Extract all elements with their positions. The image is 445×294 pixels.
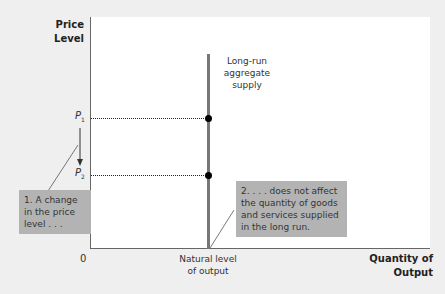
lras-label-line3: supply [218, 79, 276, 91]
annotation-arrows [0, 0, 445, 294]
annotation-box-2: 2. . . . does not affect the quantity of… [236, 181, 347, 237]
note2-line3: and services supplied [241, 209, 342, 221]
note2-line4: in the long run. [241, 221, 342, 233]
note1-line3: level . . . [24, 218, 86, 230]
lras-label: Long-run aggregate supply [218, 55, 276, 91]
point-p2 [205, 172, 212, 179]
point-p1 [205, 115, 212, 122]
annotation-box-1: 1. A change in the price level . . . [19, 190, 91, 234]
lras-curve [207, 54, 210, 249]
natural-level-line1: Natural level [170, 253, 246, 265]
note1-line2: in the price [24, 206, 86, 218]
natural-level-label: Natural level of output [170, 253, 246, 277]
lras-label-line1: Long-run [218, 55, 276, 67]
natural-level-line2: of output [170, 265, 246, 277]
note2-line1: 2. . . . does not affect [241, 185, 342, 197]
lras-label-line2: aggregate [218, 67, 276, 79]
note1-line1: 1. A change [24, 194, 86, 206]
note2-line2: the quantity of goods [241, 197, 342, 209]
